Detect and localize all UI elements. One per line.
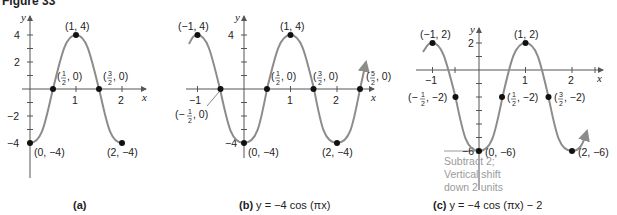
- caption-c: (c) y = −4 cos (πx) − 2: [433, 199, 542, 211]
- svg-text:2: 2: [108, 79, 112, 86]
- svg-text:(: (: [366, 70, 370, 82]
- svg-text:, 0): , 0): [67, 70, 82, 82]
- svg-text:−4: −4: [7, 137, 19, 149]
- svg-text:y: y: [469, 23, 475, 35]
- svg-text:, 0): , 0): [323, 70, 338, 82]
- svg-text:−1: −1: [425, 74, 437, 86]
- svg-text:4: 4: [228, 29, 234, 41]
- svg-text:, 0): , 0): [113, 70, 128, 82]
- svg-text:y: y: [20, 11, 26, 23]
- svg-text:2: 2: [559, 100, 563, 107]
- svg-text:1: 1: [522, 74, 528, 86]
- svg-text:(: (: [313, 70, 317, 82]
- svg-text:(−: (−: [408, 91, 418, 103]
- svg-text:(1, 2): (1, 2): [514, 28, 539, 40]
- svg-text:2: 2: [468, 37, 474, 49]
- svg-text:1: 1: [72, 94, 78, 106]
- svg-text:2: 2: [568, 74, 574, 86]
- svg-text:y: y: [234, 11, 240, 23]
- caption-b: (b) y = −4 cos (πx): [239, 199, 330, 211]
- svg-text:2: 2: [421, 100, 425, 107]
- svg-text:(: (: [57, 70, 61, 82]
- svg-text:3: 3: [108, 70, 112, 77]
- svg-text:4: 4: [14, 29, 20, 41]
- svg-text:2: 2: [512, 100, 516, 107]
- svg-text:, 0): , 0): [281, 70, 296, 82]
- svg-text:(−1, 4): (−1, 4): [178, 20, 209, 32]
- svg-text:2: 2: [371, 79, 375, 86]
- svg-text:−1: −1: [189, 94, 201, 106]
- svg-text:(0, −4): (0, −4): [248, 146, 279, 158]
- svg-text:2: 2: [276, 79, 280, 86]
- panel-b-graph: y x 4 −4 −1 1 2 (−1, 4) (1, 4) (0, −4) (…: [175, 11, 391, 158]
- panel-a-graph: y x 4 2 −2 −4 1 2 (1, 4) (0, −4) (2, −4)…: [7, 11, 147, 178]
- svg-text:(: (: [554, 91, 558, 103]
- svg-text:(: (: [507, 91, 511, 103]
- svg-text:(1, 4): (1, 4): [65, 20, 90, 32]
- svg-text:, 0): , 0): [193, 108, 208, 120]
- svg-text:1: 1: [276, 70, 280, 77]
- figure-graphs: y x 4 2 −2 −4 1 2 (1, 4) (0, −4) (2, −4)…: [0, 0, 617, 215]
- svg-text:(−: (−: [175, 108, 185, 120]
- svg-text:, −2): , −2): [517, 91, 538, 103]
- svg-text:1: 1: [512, 91, 516, 98]
- svg-text:1: 1: [287, 94, 293, 106]
- svg-text:(: (: [103, 70, 107, 82]
- svg-text:, −2): , −2): [564, 91, 585, 103]
- svg-text:(: (: [271, 70, 275, 82]
- svg-text:x: x: [141, 91, 147, 103]
- transform-note: Subtract 2; Vertical shift down 2 units: [444, 155, 503, 194]
- caption-a: (a): [73, 199, 86, 211]
- svg-text:(1, 4): (1, 4): [280, 20, 305, 32]
- svg-text:, 0): , 0): [376, 70, 391, 82]
- panel-c-graph: y x 2 −6 −1 1 2 (−1, 2) (1, 2) (0, −6) (…: [408, 23, 609, 190]
- svg-text:3: 3: [318, 70, 322, 77]
- svg-text:(2, −6): (2, −6): [578, 146, 609, 158]
- svg-text:, −2): , −2): [426, 91, 447, 103]
- svg-text:(2, −4): (2, −4): [322, 146, 353, 158]
- svg-text:2: 2: [318, 79, 322, 86]
- svg-text:x: x: [370, 91, 376, 103]
- svg-text:1: 1: [188, 108, 192, 115]
- svg-text:(2, −4): (2, −4): [107, 146, 138, 158]
- svg-text:1: 1: [421, 91, 425, 98]
- svg-text:−2: −2: [7, 110, 19, 122]
- svg-text:(−1, 2): (−1, 2): [420, 28, 451, 40]
- svg-text:3: 3: [559, 91, 563, 98]
- svg-text:5: 5: [371, 70, 375, 77]
- svg-text:2: 2: [333, 94, 339, 106]
- svg-text:1: 1: [62, 70, 66, 77]
- svg-text:2: 2: [118, 94, 124, 106]
- svg-text:x: x: [596, 72, 602, 84]
- svg-text:2: 2: [62, 79, 66, 86]
- svg-text:2: 2: [14, 56, 20, 68]
- svg-text:(0, −4): (0, −4): [34, 146, 65, 158]
- svg-text:2: 2: [188, 117, 192, 124]
